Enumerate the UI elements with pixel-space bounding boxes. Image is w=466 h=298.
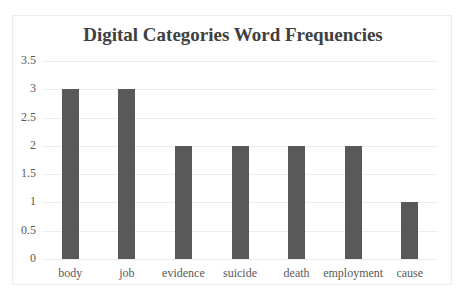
bar-death — [288, 146, 305, 259]
y-tick-label: 3 — [0, 81, 36, 96]
bar-cause — [401, 202, 418, 259]
chart-title: Digital Categories Word Frequencies — [0, 24, 466, 46]
y-tick-label: 1 — [0, 194, 36, 209]
y-tick-label: 2.5 — [0, 110, 36, 125]
bar-evidence — [175, 146, 192, 259]
y-tick-label: 2 — [0, 138, 36, 153]
gridline — [42, 61, 438, 62]
y-tick-label: 0.5 — [0, 223, 36, 238]
bar-suicide — [232, 146, 249, 259]
bar-employment — [345, 146, 362, 259]
gridline — [42, 259, 438, 260]
y-tick-label: 1.5 — [0, 166, 36, 181]
gridline — [42, 89, 438, 90]
bar-body — [62, 89, 79, 259]
y-tick-label: 0 — [0, 251, 36, 266]
gridline — [42, 118, 438, 119]
y-tick-label: 3.5 — [0, 53, 36, 68]
bar-job — [118, 89, 135, 259]
x-tick-label: cause — [375, 266, 445, 281]
